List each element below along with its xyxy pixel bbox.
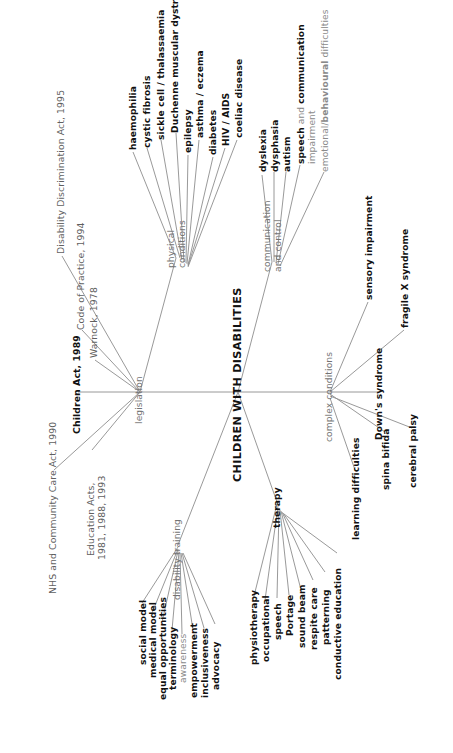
complex-item-sensory-impairment[interactable]: sensory impairment <box>364 196 374 300</box>
communication-item-dysphasia[interactable]: dysphasia <box>270 119 280 172</box>
complex-item-cerebral-palsy[interactable]: cerebral palsy <box>408 414 418 488</box>
physical-item-sickle-cell-thalassaemia[interactable]: sickle cell / thalassaemia <box>156 9 166 140</box>
training-item-advocacy[interactable]: advocacy <box>211 642 221 690</box>
legislation-item-education-acts-years: 1981, 1988, 1993 <box>97 476 107 560</box>
training-item-social-model[interactable]: social model <box>138 600 148 665</box>
communication-item-impairment-line2: impairment <box>307 110 317 164</box>
physical-item-cystic-fibrosis[interactable]: cystic fibrosis <box>142 75 152 148</box>
edge-physical-hiv <box>188 148 225 266</box>
therapy-item-occupational[interactable]: occupational <box>261 595 271 662</box>
page-title: CHILDREN WITH DISABILITIES <box>232 288 245 483</box>
physical-item-diabetes[interactable]: diabetes <box>208 110 218 155</box>
complex-item-fragile-x-syndrome[interactable]: fragile X syndrome <box>400 229 410 328</box>
physical-item-epilepsy[interactable]: epilepsy <box>183 109 193 153</box>
communication-item-dyslexia[interactable]: dyslexia <box>258 129 268 172</box>
physical-item-haemophilia[interactable]: haemophilia <box>128 86 138 150</box>
edge-comm-emotional <box>280 172 324 266</box>
physical-item-duchenne-muscular-dystrophy[interactable]: Duchenne muscular dystrophy <box>170 0 180 133</box>
training-item-equal-opportunities[interactable]: equal opportunities <box>158 597 168 700</box>
legislation-item-warnock[interactable]: Warnock, 1978 <box>89 287 99 358</box>
complex-item-learning-difficulties[interactable]: learning difficulties <box>351 438 361 540</box>
edge-dt-advocacy <box>183 553 215 624</box>
therapy-item-speech[interactable]: speech <box>273 603 283 640</box>
training-item-awareness[interactable]: awareness <box>178 634 188 683</box>
edge-legislation-physical <box>140 258 176 392</box>
legislation-item-nhs-community-care-act[interactable]: NHS and Community Care Act, 1990 <box>48 422 58 594</box>
therapy-item-physiotherapy[interactable]: physiotherapy <box>249 590 259 665</box>
edge-dt-inclusiveness <box>182 553 204 628</box>
branch-communication-and-control-line2: and control <box>273 219 283 272</box>
edge-legislation-nhs <box>54 392 140 470</box>
communication-item-speech-and-communication-impairment[interactable]: speech and communication <box>296 24 306 164</box>
branch-therapy[interactable]: therapy <box>272 487 282 528</box>
edge-dt-empowerment <box>181 553 193 630</box>
edge-root-disability-training <box>178 392 238 545</box>
communication-item-autism[interactable]: autism <box>282 136 292 172</box>
branch-legislation[interactable]: legislation <box>134 376 144 424</box>
training-item-empowerment[interactable]: empowerment <box>189 623 199 698</box>
therapy-item-conductive-education[interactable]: conductive education <box>333 568 343 680</box>
training-item-inclusiveness[interactable]: inclusiveness <box>200 628 210 698</box>
physical-item-asthma-eczema[interactable]: asthma / eczema <box>195 50 205 138</box>
education-acts-line2: 1981, 1988, 1993 <box>96 476 107 560</box>
branch-physical-conditions-line2: conditions <box>177 220 187 268</box>
legislation-item-education-acts[interactable]: Education Acts, <box>86 483 96 557</box>
branch-communication-and-control[interactable]: communication <box>262 200 272 272</box>
branch-physical-conditions[interactable]: physical <box>166 230 176 268</box>
branch-complex-conditions[interactable]: complex conditions <box>324 352 334 442</box>
speech-line1: speech and communication <box>296 24 306 164</box>
edge-legislation-eduacts <box>92 392 140 450</box>
mind-map-canvas: CHILDREN WITH DISABILITIES legislation D… <box>0 0 453 753</box>
branch-disability-training[interactable]: disability training <box>172 519 182 600</box>
edge-physical-asthma <box>187 140 199 264</box>
legislation-item-disability-discrimination-act[interactable]: Disability Discrimination Act, 1995 <box>56 90 66 254</box>
training-item-medical-model[interactable]: medical model <box>148 602 158 678</box>
physical-item-coeliac-disease[interactable]: coeliac disease <box>234 59 244 138</box>
communication-item-emotional-behavioural-difficulties[interactable]: emotional/behavioural difficulties <box>320 9 330 172</box>
edge-complex-cerebral <box>330 396 412 428</box>
edge-complex-sensory <box>330 302 368 392</box>
legislation-item-code-of-practice[interactable]: Code of Practice, 1994 <box>76 222 86 330</box>
therapy-item-portage[interactable]: Portage <box>285 595 295 636</box>
complex-item-spina-bifida[interactable]: spina bifida <box>381 429 391 490</box>
physical-item-hiv-aids[interactable]: HIV / AIDS <box>221 93 231 146</box>
therapy-item-sound-beam[interactable]: sound beam <box>297 584 307 648</box>
legislation-item-children-act[interactable]: Children Act, 1989 <box>72 335 82 434</box>
training-item-terminology[interactable]: terminology <box>168 627 178 690</box>
education-acts-line1: Education Acts, <box>85 483 96 557</box>
speech-line2: impairment <box>307 110 317 164</box>
edge-complex-fragilex <box>330 330 404 392</box>
therapy-item-respite-care[interactable]: respite care <box>309 587 319 650</box>
therapy-item-patterning[interactable]: patterning <box>321 589 331 645</box>
complex-item-downs-syndrome[interactable]: Down's syndrome <box>374 348 384 440</box>
